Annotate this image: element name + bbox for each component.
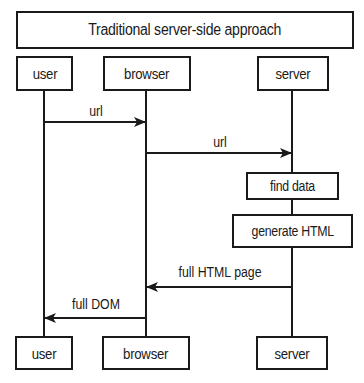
step-find-data: find data: [246, 172, 339, 200]
participant-server-top: server: [257, 56, 329, 91]
participant-user-bottom: user: [15, 336, 73, 370]
step-label: find data: [270, 178, 315, 194]
diagram-title-text: Traditional server-side approach: [89, 21, 282, 39]
diagram-title: Traditional server-side approach: [16, 11, 354, 49]
participant-label: browser: [123, 345, 168, 362]
participant-user-top: user: [16, 56, 73, 91]
participant-label: server: [274, 345, 309, 362]
step-generate-html: generate HTML: [232, 214, 353, 248]
participant-label: user: [32, 345, 57, 362]
message-label-url-1: url: [89, 103, 103, 119]
participant-label: browser: [124, 65, 169, 82]
participant-label: server: [275, 65, 310, 82]
participant-label: user: [32, 65, 57, 82]
participant-browser-top: browser: [103, 56, 191, 91]
message-label-url-2: url: [213, 134, 227, 150]
message-label-full-html-page: full HTML page: [178, 264, 261, 280]
message-label-full-dom: full DOM: [72, 296, 120, 312]
participant-browser-bottom: browser: [102, 336, 190, 370]
step-label: generate HTML: [251, 223, 333, 239]
participant-server-bottom: server: [256, 336, 328, 370]
